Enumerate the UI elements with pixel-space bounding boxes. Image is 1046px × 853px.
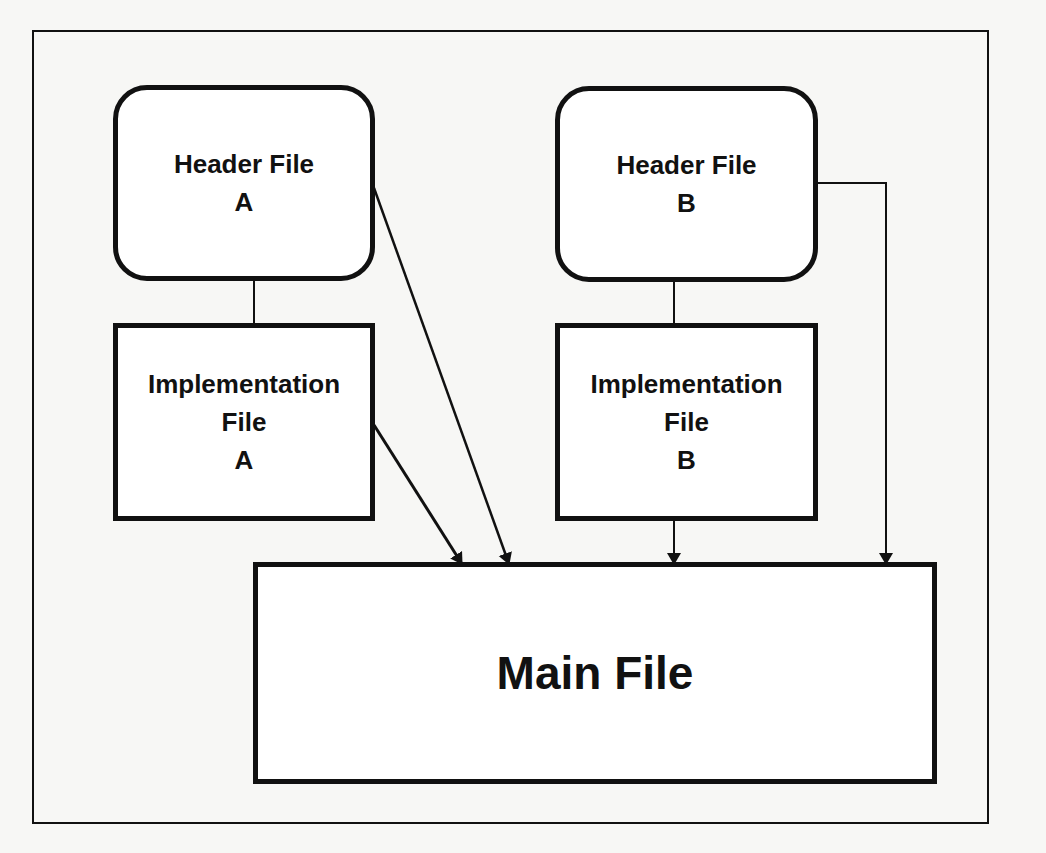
node-label: B — [677, 184, 696, 222]
node-label: File — [222, 403, 267, 441]
node-label: Header File — [174, 145, 314, 183]
node-label: A — [235, 441, 254, 479]
edge-header-a-main — [374, 188, 509, 564]
node-label: Implementation — [590, 365, 782, 403]
node-header-file-a: Header File A — [113, 85, 375, 281]
node-label: Header File — [616, 146, 756, 184]
node-main-file: Main File — [253, 562, 937, 784]
node-header-file-b: Header File B — [555, 86, 818, 282]
node-label: B — [677, 441, 696, 479]
node-implementation-file-b: Implementation File B — [555, 323, 818, 521]
edge-impl-a-main — [374, 425, 462, 564]
node-label: A — [235, 183, 254, 221]
node-label: File — [664, 403, 709, 441]
node-implementation-file-a: Implementation File A — [113, 323, 375, 521]
node-label: Main File — [497, 647, 694, 699]
node-label: Implementation — [148, 365, 340, 403]
edge-header-b-main — [818, 183, 886, 564]
